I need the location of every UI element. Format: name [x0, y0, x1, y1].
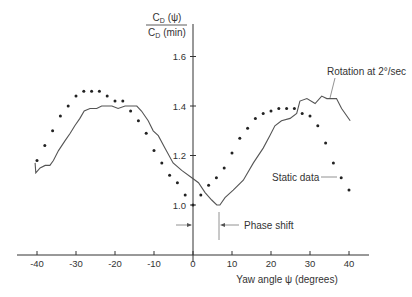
- static-data-point: [192, 204, 195, 207]
- y-tick-label: 1.6: [173, 51, 186, 62]
- static-data-point: [324, 142, 327, 145]
- x-tick-label: -10: [147, 258, 161, 269]
- static-data-point: [168, 174, 171, 177]
- static-data-point: [106, 95, 109, 98]
- static-data-point: [129, 110, 132, 113]
- static-data-point: [98, 90, 101, 93]
- static-data-point: [145, 132, 148, 135]
- arrow-right-icon: [187, 223, 192, 227]
- static-annotation: Static data: [272, 172, 337, 183]
- static-data-point: [160, 161, 163, 164]
- x-tick-label: 0: [190, 258, 195, 269]
- static-data-point: [137, 119, 140, 122]
- static-data-point: [316, 124, 319, 127]
- static-label: Static data: [272, 172, 320, 183]
- arrow-left-icon: [220, 223, 225, 227]
- phase-shift-annotation: Phase shift: [176, 212, 294, 240]
- y-tick-label: 1.4: [173, 101, 186, 112]
- x-ticks: -40-30-20-10010203040: [30, 251, 354, 269]
- static-data-point: [114, 100, 117, 103]
- x-axis-title: Yaw angle ψ (degrees): [236, 274, 337, 285]
- static-data-point: [153, 149, 156, 152]
- x-tick-label: 20: [266, 258, 277, 269]
- static-data-point: [277, 107, 280, 110]
- x-tick-label: -40: [30, 258, 44, 269]
- static-data-point: [51, 129, 54, 132]
- static-data-point: [262, 112, 265, 115]
- x-tick-label: -20: [108, 258, 122, 269]
- x-tick-label: 40: [344, 258, 355, 269]
- static-data-point: [176, 181, 179, 184]
- static-data-point: [285, 107, 288, 110]
- static-data-point: [90, 90, 93, 93]
- x-tick-label: 10: [227, 258, 238, 269]
- rotation-annotation: Rotation at 2°/sec: [327, 66, 406, 98]
- x-tick-label: 30: [305, 258, 316, 269]
- static-data-point: [67, 105, 70, 108]
- static-data-point: [301, 112, 304, 115]
- static-data-point: [246, 127, 249, 130]
- static-data-point: [184, 194, 187, 197]
- static-data-point: [215, 176, 218, 179]
- static-data-point: [332, 161, 335, 164]
- static-data-point: [293, 107, 296, 110]
- rotation-label: Rotation at 2°/sec: [327, 66, 406, 77]
- static-data-point: [231, 152, 234, 155]
- y-title-numerator: CD (ψ): [153, 12, 182, 24]
- rotation-leader-line: [330, 78, 335, 98]
- static-data-point: [340, 176, 343, 179]
- y-title-denominator: CD (min): [148, 27, 186, 39]
- static-data-point: [309, 114, 312, 117]
- static-data-point: [59, 114, 62, 117]
- drag-coefficient-chart: CD (ψ) CD (min) 1.01.21.41.6 -40-30-20-1…: [0, 0, 412, 297]
- static-data-point: [270, 110, 273, 113]
- static-data-point: [75, 95, 78, 98]
- static-data-point: [207, 184, 210, 187]
- static-data-point: [348, 189, 351, 192]
- static-data-point: [43, 144, 46, 147]
- y-tick-label: 1.2: [173, 150, 186, 161]
- static-data-point: [121, 100, 124, 103]
- static-data-point: [199, 194, 202, 197]
- static-data-point: [238, 137, 241, 140]
- y-axis-title: CD (ψ) CD (min): [146, 12, 187, 39]
- x-tick-label: -30: [69, 258, 83, 269]
- static-data-point: [254, 117, 257, 120]
- static-data-point: [82, 90, 85, 93]
- static-data-point: [36, 159, 39, 162]
- static-data-point: [223, 166, 226, 169]
- y-tick-label: 1.0: [173, 200, 186, 211]
- phase-shift-label: Phase shift: [244, 220, 294, 231]
